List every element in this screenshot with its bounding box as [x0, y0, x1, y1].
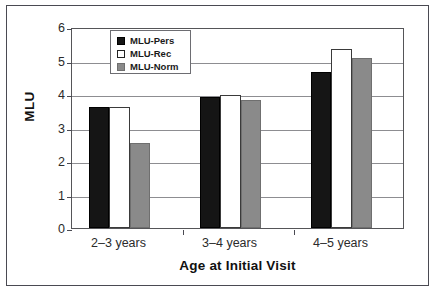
y-axis-title: MLU — [22, 87, 37, 127]
y-axis-tick — [67, 96, 72, 97]
legend-item: MLU-Rec — [117, 48, 190, 60]
y-axis-tick-label: 6 — [39, 22, 65, 35]
legend-item: MLU-Norm — [117, 61, 190, 73]
x-axis-tick-label: 2–3 years — [64, 236, 174, 250]
legend-item-label: MLU-Pers — [130, 36, 174, 46]
legend-swatch-icon — [117, 63, 125, 71]
bar — [220, 95, 241, 228]
y-axis-tick-label: 5 — [39, 55, 65, 68]
y-axis-tick-labels: 0123456 — [37, 28, 65, 229]
y-axis-tick — [67, 29, 72, 30]
bar — [89, 107, 110, 228]
legend: MLU-PersMLU-RecMLU-Norm — [110, 30, 191, 74]
bar — [109, 107, 130, 228]
x-axis-tick — [183, 230, 184, 235]
y-axis-tick-label: 2 — [39, 156, 65, 169]
y-axis-tick — [67, 63, 72, 64]
y-axis-tick — [67, 163, 72, 164]
bar — [241, 100, 262, 228]
bar — [331, 49, 352, 228]
bar — [200, 97, 221, 228]
legend-item: MLU-Pers — [117, 35, 190, 47]
figure-container: MLU 0123456 2–3 years3–4 years4–5 years … — [0, 0, 435, 291]
legend-item-label: MLU-Rec — [130, 49, 171, 59]
x-axis-tick-labels: 2–3 years3–4 years4–5 years — [71, 236, 404, 254]
y-axis-tick-label: 4 — [39, 89, 65, 102]
x-axis-tick — [294, 230, 295, 235]
y-axis-tick — [67, 130, 72, 131]
legend-swatch-icon — [117, 50, 125, 58]
bar — [130, 143, 151, 228]
x-axis-tick-label: 4–5 years — [286, 236, 396, 250]
y-axis-tick-label: 0 — [39, 223, 65, 236]
bar — [352, 58, 373, 228]
y-axis-tick — [67, 230, 72, 231]
legend-swatch-icon — [117, 37, 125, 45]
x-axis-tick-label: 3–4 years — [175, 236, 285, 250]
x-axis-title: Age at Initial Visit — [71, 258, 404, 273]
bar — [311, 72, 332, 228]
y-axis-tick-label: 1 — [39, 189, 65, 202]
y-axis-tick — [67, 197, 72, 198]
legend-item-label: MLU-Norm — [130, 62, 179, 72]
y-axis-tick-label: 3 — [39, 122, 65, 135]
